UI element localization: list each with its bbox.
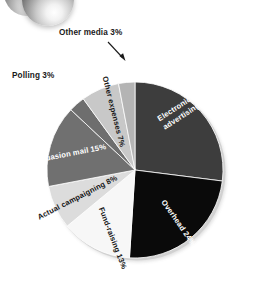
pie-chart-svg <box>0 0 273 300</box>
pie-slice[interactable] <box>135 82 223 181</box>
pie-slice[interactable] <box>129 170 222 258</box>
pie-chart-figure: Other media 3% Polling 3% Electronic med… <box>0 0 273 300</box>
slice-label-polling: Polling 3% <box>12 71 54 80</box>
slice-label-other-media: Other media 3% <box>59 28 122 37</box>
pie-slices-group <box>47 82 223 258</box>
other-media-callout-arrow-icon <box>108 42 126 61</box>
